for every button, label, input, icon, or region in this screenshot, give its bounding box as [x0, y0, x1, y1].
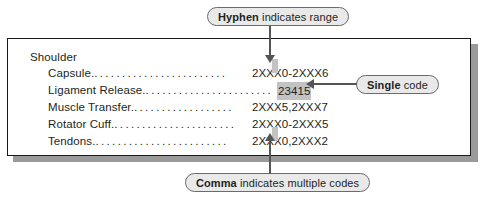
arrow-single-shaft — [313, 83, 357, 85]
index-entry-tendons: Tendons......................... 2XXX0,2… — [30, 133, 450, 150]
arrow-hyphen-head-icon — [265, 55, 275, 63]
index-entry-rotator-cuff: Rotator Cuff....................... 2XXX… — [30, 116, 450, 133]
entry-term: Capsule. — [48, 67, 94, 79]
entry-code: 2XXX0,2XXX2 — [252, 133, 328, 150]
entry-term: Rotator Cuff. — [48, 118, 114, 130]
callout-single: Single code — [356, 75, 439, 94]
index-group-title: Shoulder — [30, 49, 450, 65]
callout-comma-text: indicates multiple codes — [237, 177, 359, 189]
entry-leader-dots: ........................ — [94, 67, 227, 79]
arrow-comma-shaft — [269, 138, 271, 174]
index-entry-list: Shoulder Capsule........................… — [30, 49, 450, 150]
callout-single-emphasis: Single — [367, 79, 401, 91]
entry-leader-dots: .................. — [134, 101, 234, 113]
entry-code: 2XXX5,2XXX7 — [252, 99, 328, 116]
entry-leader-dots: ....................... — [146, 84, 274, 96]
index-entry-muscle-transfer: Muscle Transfer................... 2XXX5… — [30, 99, 450, 116]
callout-comma-emphasis: Comma — [196, 177, 237, 189]
entry-term: Tendons. — [48, 135, 95, 147]
callout-comma: Comma indicates multiple codes — [185, 173, 370, 192]
callout-single-text: code — [401, 79, 428, 91]
callout-hyphen: Hyphen indicates range — [207, 7, 349, 26]
callout-hyphen-emphasis: Hyphen — [218, 11, 259, 23]
entry-code: 2XXX0-2XXX5 — [252, 116, 329, 133]
index-box: Shoulder Capsule........................… — [7, 38, 471, 156]
entry-leader-dots: ...................... — [114, 118, 236, 130]
arrow-comma-head-icon — [265, 133, 275, 141]
arrow-single-head-icon — [306, 79, 314, 89]
entry-term: Ligament Release. — [48, 84, 146, 96]
entry-leader-dots: ........................ — [95, 135, 228, 147]
entry-code: 2XXX0-2XXX6 — [252, 65, 329, 82]
figure-canvas: Shoulder Capsule........................… — [0, 0, 488, 197]
entry-term: Muscle Transfer. — [48, 101, 134, 113]
callout-hyphen-text: indicates range — [259, 11, 338, 23]
